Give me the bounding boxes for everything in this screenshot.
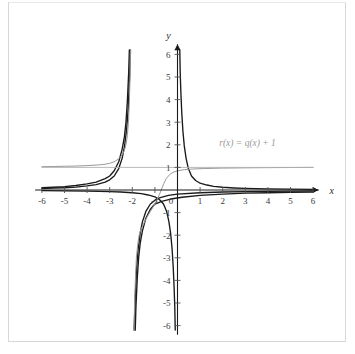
y-tick-label-5: 5 — [166, 72, 171, 82]
x-tick-label-3: 3 — [243, 196, 248, 206]
function-label-r: r(x) = q(x) + 1 — [219, 138, 276, 149]
label-group: -6-5-4-3-2-1123456654321-1-2-3-4-5-60xyr… — [38, 30, 334, 331]
y-tick-label--5: -5 — [163, 298, 171, 308]
graph-svg: -6-5-4-3-2-1123456654321-1-2-3-4-5-60xyr… — [0, 0, 355, 354]
x-axis-arrowhead — [313, 187, 319, 193]
x-tick-label--1: -1 — [151, 196, 159, 206]
x-tick-label--2: -2 — [129, 196, 137, 206]
y-tick-label-4: 4 — [166, 95, 171, 105]
x-tick-label-1: 1 — [198, 196, 203, 206]
plot-area: -6-5-4-3-2-1123456654321-1-2-3-4-5-60xyr… — [0, 0, 355, 354]
y-tick-label--2: -2 — [163, 231, 171, 241]
y-tick-label-1: 1 — [166, 163, 171, 173]
x-tick-label--4: -4 — [83, 196, 91, 206]
x-tick-label-6: 6 — [311, 196, 316, 206]
x-tick-label--6: -6 — [38, 196, 46, 206]
x-axis-label: x — [329, 185, 335, 196]
curve-0-1 — [134, 191, 313, 330]
y-tick-label-2: 2 — [166, 140, 171, 150]
x-tick-label--3: -3 — [106, 196, 114, 206]
y-tick-label-3: 3 — [166, 118, 171, 128]
y-tick-label--3: -3 — [163, 253, 171, 263]
origin-label: 0 — [169, 196, 174, 206]
figure-container: -6-5-4-3-2-1123456654321-1-2-3-4-5-60xyr… — [0, 0, 355, 354]
y-tick-label--4: -4 — [163, 276, 171, 286]
y-tick-label--1: -1 — [163, 208, 171, 218]
x-tick-label-5: 5 — [288, 196, 293, 206]
y-tick-label-6: 6 — [166, 50, 171, 60]
curve-3-0 — [42, 50, 131, 167]
x-tick-label-2: 2 — [220, 196, 225, 206]
x-tick-label-4: 4 — [266, 196, 271, 206]
curve-1-1 — [135, 192, 313, 330]
curve-2-0 — [42, 191, 175, 330]
y-axis-arrowhead — [174, 44, 180, 50]
y-tick-label--6: -6 — [163, 321, 171, 331]
y-axis-label: y — [165, 30, 171, 41]
x-tick-label--5: -5 — [61, 196, 69, 206]
